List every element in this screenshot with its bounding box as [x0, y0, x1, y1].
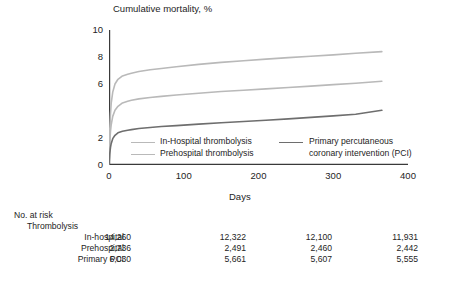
risk-table-group-label: Thrombolysis — [27, 221, 78, 231]
x-tick-label: 100 — [164, 170, 204, 181]
y-tick-label: 8 — [81, 51, 103, 62]
legend-label-primary-pci-line2: coronary intervention (PCI) — [309, 148, 412, 158]
risk-cell: 5,661 — [202, 254, 246, 264]
y-tick-label: 0 — [81, 159, 103, 170]
legend-swatch-prehospital — [131, 154, 155, 155]
y-tick-label: 6 — [81, 78, 103, 89]
risk-cell: 2,460 — [288, 243, 332, 253]
risk-cell: 12,322 — [202, 232, 246, 242]
figure: Cumulative mortality, % 026810 010020030… — [0, 0, 451, 292]
x-tick-label: 400 — [388, 170, 428, 181]
risk-cell: 11,931 — [374, 232, 418, 242]
y-tick-label: 10 — [81, 24, 103, 35]
risk-cell: 2,491 — [202, 243, 246, 253]
legend-swatch-in-hospital — [131, 142, 155, 143]
risk-cell: 14,260 — [87, 232, 131, 242]
risk-cell: 2,442 — [374, 243, 418, 253]
risk-cell: 5,607 — [288, 254, 332, 264]
risk-cell: 6,030 — [87, 254, 131, 264]
risk-table-title: No. at risk — [14, 210, 53, 220]
risk-cell: 2,736 — [87, 243, 131, 253]
x-tick-label: 200 — [239, 170, 279, 181]
risk-cell: 5,555 — [374, 254, 418, 264]
y-tick-label: 2 — [81, 132, 103, 143]
chart-title: Cumulative mortality, % — [113, 3, 212, 14]
x-tick-label: 0 — [89, 170, 129, 181]
x-tick-label: 300 — [313, 170, 353, 181]
risk-cell: 12,100 — [288, 232, 332, 242]
legend-swatch-primary-pci — [279, 142, 303, 143]
legend-label-prehospital: Prehospital thrombolysis — [160, 148, 254, 158]
x-axis-label: Days — [229, 191, 251, 202]
legend-label-primary-pci-line1: Primary percutaneous — [309, 136, 393, 146]
legend-label-in-hospital: In-Hospital thrombolysis — [160, 136, 252, 146]
